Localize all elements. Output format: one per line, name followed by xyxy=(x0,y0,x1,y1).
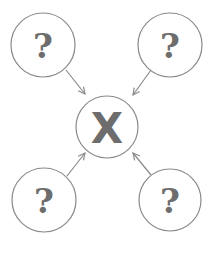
node-top-left: ? xyxy=(11,13,75,77)
diagram-canvas: X ? ? ? ? xyxy=(0,0,214,256)
question-mark-icon: ? xyxy=(160,181,180,221)
question-mark-icon: ? xyxy=(33,26,53,66)
question-mark-icon: ? xyxy=(34,181,54,221)
diagram-svg: X ? ? ? ? xyxy=(0,0,214,256)
node-top-right: ? xyxy=(138,13,202,77)
edge-top-left xyxy=(66,70,85,94)
question-mark-icon: ? xyxy=(160,26,180,66)
node-bottom-left: ? xyxy=(12,168,76,232)
center-node-label: X xyxy=(91,104,123,153)
edge-bottom-right xyxy=(133,153,151,175)
edge-top-right xyxy=(133,70,151,95)
center-node: X xyxy=(76,96,138,158)
edge-bottom-left xyxy=(67,153,85,176)
node-bottom-right: ? xyxy=(139,169,201,231)
